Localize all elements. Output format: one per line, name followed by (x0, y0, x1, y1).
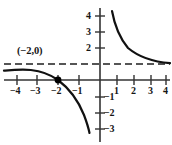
x-tick-label-1: 1 (114, 86, 119, 96)
x-tick-label-2: 2 (131, 86, 136, 96)
x-tick-label--3: −3 (30, 86, 40, 96)
y-tick-label--1: −1 (104, 92, 114, 102)
x-tick-label--2: −2 (51, 86, 61, 96)
curve-right-branch (112, 11, 170, 63)
x-tick-label-4: 4 (163, 86, 168, 96)
x-tick-label--1: −1 (72, 86, 82, 96)
y-tick-label-3: 3 (86, 27, 91, 37)
x-intercept-label: (−2,0) (17, 45, 43, 56)
y-tick-label-4: 4 (86, 11, 91, 21)
y-tick-label-2: 2 (86, 43, 91, 53)
x-tick-label-3: 3 (148, 86, 153, 96)
rational-function-graph: (−2,0) −4 −3 −2 −1 1 2 3 4 4 3 2 −1 −2 −… (0, 0, 172, 145)
y-tick-label--2: −2 (104, 108, 114, 118)
x-intercept-dot (55, 77, 62, 84)
y-tick-label--3: −3 (104, 124, 114, 134)
plot-area (0, 0, 172, 145)
x-tick-label--4: −4 (10, 86, 20, 96)
